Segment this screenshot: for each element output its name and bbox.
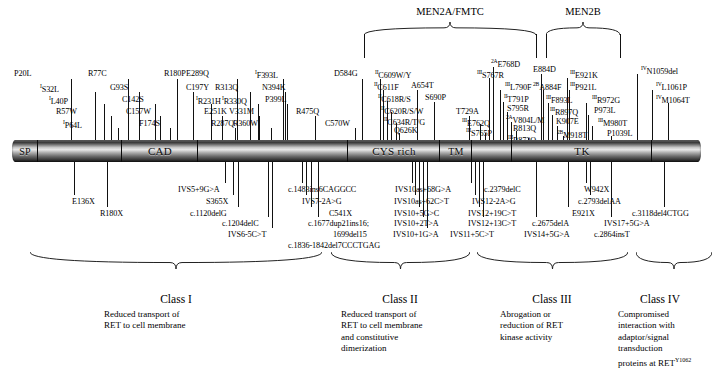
mutation-label-above: T729A [456,108,479,116]
mutation-leader-above [271,128,272,140]
mutation-label-below: c.2379delC [484,186,521,194]
class-title: Class I [160,293,192,305]
class-description: Reduced transport ofRET to cell membrane… [341,309,423,355]
mutation-leader-below [306,162,307,195]
mutation-label-above: R313Q [215,84,238,92]
mutation-leader-above [586,103,587,140]
mutation-label-below: IVS12+19C>T [468,210,516,218]
mutation-leader-above [170,128,171,140]
mutation-label-above: P20L [14,70,31,78]
mutation-label-above: 2AE768D [491,59,520,69]
mutation-label-below: IVS5+9G>A [178,186,220,194]
mutation-label-above: 2BA884F [533,82,561,92]
disease-group-label: MEN2A/FMTC [416,6,484,17]
mutation-leader-below [479,162,480,207]
mutation-label-above: IIIP921L [570,82,596,92]
mutation-label-above: F174S [139,120,160,128]
mutation-label-below: IVS12+13C>T [468,220,516,228]
ret-mutation-figure: MEN2A/FMTCMEN2B P20LIS32LIL40PR57WIP64LR… [0,0,713,371]
mutation-leader-above [118,128,119,140]
mutation-leader-above [548,103,549,140]
mutation-label-above: IR330Q [222,96,247,106]
mutation-leader-above [399,133,400,140]
mutation-leader-below [471,162,472,183]
mutation-label-above: R475Q [296,108,319,116]
mutation-label-above: E884D [533,66,556,74]
class-title: Class III [532,293,571,305]
mutation-leader-below [419,162,420,207]
class-title: Class IV [640,293,680,305]
mutation-label-above: N394K [262,84,286,92]
class-brace [477,252,628,270]
mutation-leader-below [586,162,587,183]
mutation-label-below: c.1204delC [222,220,259,228]
mutation-label-above: R77C [88,70,107,78]
mutation-leader-below [427,162,428,228]
mutation-leader-above [259,116,260,140]
mutation-label-above: C570W [325,120,350,128]
mutation-label-above: IIIS765P [466,128,492,138]
mutation-label-below: c.1677dup21ins16; [308,220,369,228]
mutation-label-above: A654T [411,82,434,90]
mutation-label-above: IS32L [40,84,59,94]
mutation-label-below: S365X [206,198,228,206]
mutation-label-above: 2BM918T [557,130,587,140]
mutation-leader-below [318,162,319,217]
mutation-label-below: IVS6-5C>T [228,231,266,239]
mutation-leader-above [668,103,669,140]
mutation-label-above: IIC611F [374,82,399,92]
mutation-label-above: IP64L [63,120,82,130]
mutation-leader-below [483,162,484,217]
mutation-leader-below [233,162,234,195]
mutation-leader-above [362,79,363,140]
mutation-label-below: IVS17+5G>A [604,220,650,228]
mutation-label-above: IVN1059del [641,66,678,76]
class-brace [636,252,712,270]
mutation-leader-below [272,162,273,228]
mutation-label-below: IVS14+5G>A [524,231,570,239]
mutation-leader-below [107,162,108,207]
mutation-leader-above [500,90,501,140]
mutation-leader-above [652,90,653,140]
mutation-leader-above [434,102,435,140]
class-title: Class II [382,293,417,305]
mutation-label-above: R180P [164,70,186,78]
mutation-leader-above [193,92,194,140]
mutation-label-above: S690P [425,94,446,102]
mutation-label-above: IR231H [196,96,221,106]
mutation-label-above: IIIR972G [592,95,620,105]
mutation-leader-above [355,128,356,140]
mutation-leader-above [485,133,486,140]
mutation-label-below: IVS10+1G>A [393,231,439,239]
mutation-leader-above [543,90,544,140]
mutation-label-above: IVL1061P [656,82,687,92]
mutation-label-below: IVS11+5C>T [450,231,494,239]
mutation-leader-below [268,162,269,217]
mutation-label-above: IIIM980T [598,118,627,128]
domain-label-tk: TK [512,140,652,162]
domain-segment-linker [198,140,348,162]
mutation-leader-below [611,162,612,217]
mutation-label-below: c.1120delG [190,210,227,218]
mutation-leader-above [235,128,236,140]
mutation-label-above: V331M [229,108,254,116]
mutation-label-above: IIIE921K [570,70,598,80]
mutation-leader-below [311,162,312,207]
mutation-leader-below [225,162,226,183]
class-description: Compromisedinteraction withadaptor/signa… [618,309,691,369]
mutation-label-below: IVS10+2T>A [394,220,439,228]
mutation-label-above: IL40P [49,96,68,106]
mutation-label-above: C197Y [186,84,209,92]
mutation-label-below: c.1483ins6CAGGCC [288,186,356,194]
mutation-label-below: W942X [584,186,609,194]
mutation-label-below: E136X [72,198,95,206]
mutation-label-above: C142S [122,96,144,104]
mutation-label-below: E921X [572,210,595,218]
domain-segment-linker [38,140,122,162]
mutation-label-below: c.2675delA [532,220,569,228]
class-description: Reduced transport ofRET to cell membrane [104,309,186,332]
mutation-leader-below [536,162,537,217]
mutation-label-above: R287Q [211,120,234,128]
mutation-leader-above [287,104,288,140]
class-brace [331,252,470,270]
